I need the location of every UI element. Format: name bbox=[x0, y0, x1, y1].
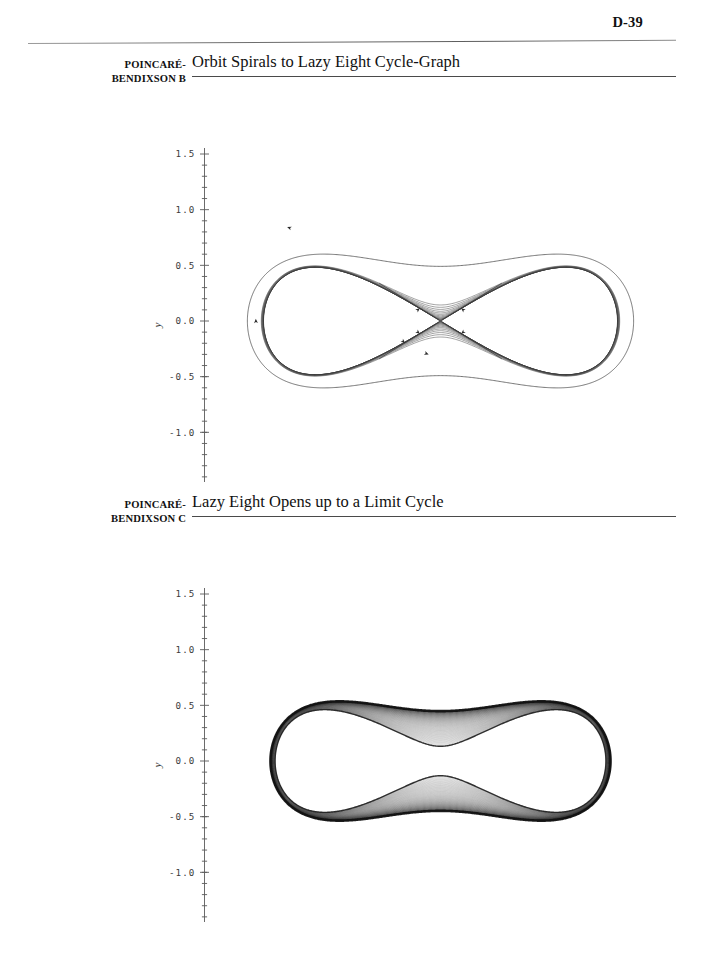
marginal-label-c: POINCARÉ- BENDIXSON C bbox=[60, 498, 186, 525]
direction-arrows-b bbox=[254, 225, 502, 359]
y-tick-label: 0.5 bbox=[176, 260, 196, 271]
y-tick-label: 0.5 bbox=[176, 700, 196, 711]
y-axis-label: y bbox=[151, 762, 163, 768]
orbit-winding-turn bbox=[272, 706, 608, 816]
y-tick-label: 1.0 bbox=[176, 644, 196, 655]
y-axis-label: y bbox=[151, 322, 163, 328]
page-number: D-39 bbox=[612, 14, 643, 31]
page-header: D-39 bbox=[0, 0, 701, 46]
y-tick-label: 1.5 bbox=[176, 588, 196, 599]
y-tick-label: 0.0 bbox=[176, 755, 196, 766]
axes-b: 1.51.00.50.0-0.5-1.0-1.5-2-1012xy bbox=[151, 148, 680, 482]
marginal-label-b-line1: POINCARÉ- bbox=[60, 58, 186, 72]
orbit-winding-turn bbox=[272, 705, 609, 817]
phase-portrait-c: 1.51.00.50.0-0.5-1.0-1.5-2-1012xy bbox=[0, 522, 701, 922]
plot-area-c: 1.51.00.50.0-0.5-1.0-1.5-2-1012xy bbox=[0, 522, 701, 922]
orbit-winding-turn bbox=[272, 705, 609, 816]
y-tick-label: -0.5 bbox=[169, 811, 196, 822]
marginal-label-b: POINCARÉ- BENDIXSON B bbox=[60, 58, 186, 85]
plot-area-b: 1.51.00.50.0-0.5-1.0-1.5-2-1012xy bbox=[0, 82, 701, 482]
y-tick-label: -1.0 bbox=[169, 427, 196, 438]
y-tick-label: -1.0 bbox=[169, 867, 196, 878]
figure-poincare-bendixson-b: POINCARÉ- BENDIXSON B Orbit Spirals to L… bbox=[0, 48, 701, 488]
flow-direction-arrow bbox=[424, 351, 429, 356]
orbit-curves-c bbox=[270, 701, 610, 820]
figure-title-rule-c bbox=[192, 516, 676, 517]
flow-direction-arrow bbox=[254, 319, 258, 324]
axes-c: 1.51.00.50.0-0.5-1.0-1.5-2-1012xy bbox=[151, 588, 680, 922]
y-tick-label: 1.0 bbox=[176, 204, 196, 215]
figure-poincare-bendixson-c: POINCARÉ- BENDIXSON C Lazy Eight Opens u… bbox=[0, 488, 701, 938]
y-tick-label: 1.5 bbox=[176, 148, 196, 159]
orbit-winding-turn bbox=[275, 709, 607, 813]
marginal-label-c-line1: POINCARÉ- bbox=[60, 498, 186, 512]
orbit-winding-turn bbox=[271, 703, 610, 819]
y-tick-label: 0.0 bbox=[176, 315, 196, 326]
y-tick-label: -0.5 bbox=[169, 371, 196, 382]
flow-direction-arrow bbox=[286, 225, 291, 230]
figure-title-rule-b bbox=[192, 76, 676, 77]
orbit-winding-turn bbox=[273, 707, 608, 815]
orbit-winding-turn bbox=[274, 708, 607, 813]
orbit-winding-turn bbox=[273, 708, 607, 815]
phase-portrait-b: 1.51.00.50.0-0.5-1.0-1.5-2-1012xy bbox=[0, 82, 701, 482]
figure-title-b: Orbit Spirals to Lazy Eight Cycle-Graph bbox=[192, 52, 460, 72]
header-rule bbox=[28, 40, 676, 44]
figure-title-c: Lazy Eight Opens up to a Limit Cycle bbox=[192, 492, 444, 512]
